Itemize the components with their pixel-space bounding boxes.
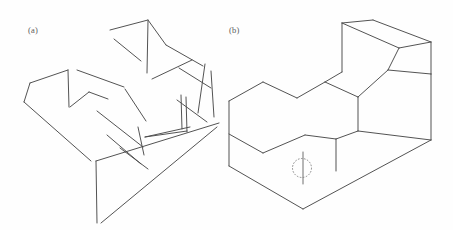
figure-root: (a) (b) (0, 0, 453, 230)
panel-b-label: (b) (229, 25, 240, 35)
figure-canvas: (a) (b) (0, 0, 453, 230)
figure-background (0, 0, 453, 230)
panel-a-label: (a) (28, 25, 38, 35)
